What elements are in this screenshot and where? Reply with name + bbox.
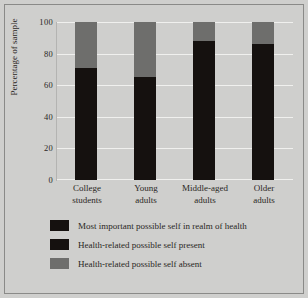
legend-swatch-icon: [50, 258, 69, 269]
bar-stack: [193, 22, 215, 180]
bar-segment-present: [193, 41, 215, 180]
y-tick-80: 80: [44, 49, 53, 59]
y-tick-100: 100: [39, 17, 53, 27]
bar-stack: [134, 22, 156, 180]
x-axis-labels: College students Young adults Middle-age…: [57, 183, 293, 211]
bar-segment-absent: [75, 22, 97, 68]
legend-item-present[interactable]: Health-related possible self present: [50, 235, 300, 254]
x-label-older-adults: Older adults: [223, 183, 305, 206]
legend-swatch-icon: [50, 239, 69, 250]
legend-label: Most important possible self in realm of…: [78, 221, 247, 231]
bar-stack: [252, 22, 274, 180]
legend-label: Health-related possible self present: [78, 240, 205, 250]
legend-label: Health-related possible self absent: [78, 259, 202, 269]
legend: Most important possible self in realm of…: [50, 216, 300, 273]
y-axis-ticks: 100 80 60 40 20 0: [0, 22, 53, 180]
bar-middle-aged-adults[interactable]: [193, 22, 215, 180]
y-tick-20: 20: [44, 143, 53, 153]
bar-stack: [75, 22, 97, 180]
bar-older-adults[interactable]: [252, 22, 274, 180]
figure: Percentage of sample 100 80 60 40 20 0: [0, 0, 308, 298]
bar-segment-present: [75, 68, 97, 180]
bar-college-students[interactable]: [75, 22, 97, 180]
bar-young-adults[interactable]: [134, 22, 156, 180]
bar-segment-absent: [252, 22, 274, 44]
plot-area: [57, 22, 293, 180]
legend-item-absent[interactable]: Health-related possible self absent: [50, 254, 300, 273]
bar-segment-present: [252, 44, 274, 180]
bar-segment-present: [134, 77, 156, 180]
x-label-line-2: adults: [223, 195, 305, 207]
y-tick-40: 40: [44, 112, 53, 122]
x-label-line-1: Older: [223, 183, 305, 195]
bar-segment-absent: [134, 22, 156, 77]
legend-swatch-icon: [50, 220, 69, 231]
bar-segment-absent: [193, 22, 215, 41]
y-tick-60: 60: [44, 80, 53, 90]
legend-item-most-important[interactable]: Most important possible self in realm of…: [50, 216, 300, 235]
